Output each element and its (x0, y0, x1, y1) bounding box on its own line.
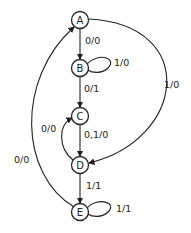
state-e-label: E (77, 207, 83, 218)
edge-d-c (62, 118, 73, 160)
state-d-label: D (76, 160, 84, 171)
edge-e-a (32, 27, 74, 207)
state-diagram: 0/0 1/0 0/1 1/0 0,1/0 0/0 1/1 1/1 0/0 A … (0, 0, 191, 233)
state-d: D (72, 157, 89, 174)
label-b-c: 0/1 (84, 83, 99, 94)
label-a-d: 1/0 (164, 79, 179, 90)
label-e-a: 0/0 (14, 154, 29, 165)
state-e: E (72, 204, 89, 221)
label-c-d: 0,1/0 (84, 129, 108, 140)
edge-e-e (87, 202, 111, 217)
label-e-e: 1/1 (116, 203, 131, 214)
label-b-b: 1/0 (114, 57, 129, 68)
edge-a-d (89, 19, 167, 163)
state-c: C (72, 108, 89, 125)
label-d-e: 1/1 (86, 180, 101, 191)
state-c-label: C (77, 111, 84, 122)
state-a: A (72, 12, 89, 29)
state-b-label: B (77, 63, 84, 74)
label-d-c: 0/0 (41, 123, 56, 134)
state-a-label: A (77, 15, 84, 26)
state-b: B (72, 60, 89, 77)
label-a-b: 0/0 (85, 35, 100, 46)
edge-b-b (87, 57, 111, 72)
